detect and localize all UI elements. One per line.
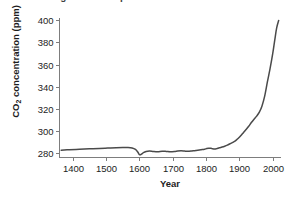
y-tick-label: 300 <box>38 126 54 137</box>
x-axis-ticks: 1400150016001700180019002000 <box>63 158 284 174</box>
x-tick-label: 1800 <box>196 163 217 174</box>
y-tick-label: 360 <box>38 60 54 71</box>
x-tick-label: 1600 <box>129 163 150 174</box>
x-tick-label: 1700 <box>163 163 184 174</box>
co2-data-line <box>61 20 279 154</box>
co2-chart-figure: Global changes in atmospheric CO2 over t… <box>0 0 297 201</box>
y-tick-label: 380 <box>38 37 54 48</box>
x-tick-label: 2000 <box>263 163 284 174</box>
y-tick-label: 280 <box>38 148 54 159</box>
x-tick-label: 1400 <box>63 163 84 174</box>
y-tick-label: 340 <box>38 82 54 93</box>
y-tick-label: 320 <box>38 104 54 115</box>
plot-area: 280300320340360380400 140015001600170018… <box>0 0 297 201</box>
y-axis-ticks: 280300320340360380400 <box>38 15 60 159</box>
x-tick-label: 1500 <box>96 163 117 174</box>
y-tick-label: 400 <box>38 15 54 26</box>
x-tick-label: 1900 <box>229 163 250 174</box>
